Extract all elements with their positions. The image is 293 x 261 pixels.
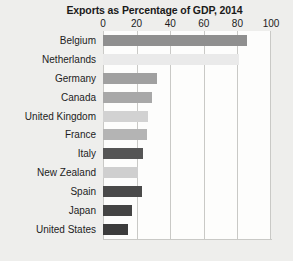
bar-row <box>103 31 271 50</box>
x-tick-label: 100 <box>263 18 280 29</box>
x-axis-tick-labels: 020406080100 <box>0 18 293 31</box>
y-label-row: Germany <box>0 69 99 88</box>
y-axis-label: Canada <box>61 92 99 103</box>
y-axis-label: New Zealand <box>37 167 99 178</box>
y-axis-label: United Kingdom <box>25 111 99 122</box>
bar-row <box>103 88 271 107</box>
x-tick-label: 20 <box>131 18 142 29</box>
x-tick-label: 0 <box>100 18 106 29</box>
plot-area <box>103 31 271 239</box>
y-label-row: Netherlands <box>0 50 99 69</box>
bar <box>103 129 147 140</box>
x-tick-label: 40 <box>165 18 176 29</box>
bar <box>103 92 152 103</box>
y-axis-label: United States <box>36 224 99 235</box>
bar-row <box>103 50 271 69</box>
y-axis-label: Japan <box>69 205 99 216</box>
y-label-row: Belgium <box>0 31 99 50</box>
x-tick-label: 60 <box>198 18 209 29</box>
chart-title: Exports as Percentage of GDP, 2014 <box>0 4 293 16</box>
bar <box>103 35 247 46</box>
bars-layer <box>103 31 271 239</box>
y-label-row: France <box>0 125 99 144</box>
y-label-row: Canada <box>0 88 99 107</box>
y-label-row: Italy <box>0 144 99 163</box>
bar <box>103 111 148 122</box>
y-label-row: Spain <box>0 182 99 201</box>
bar-row <box>103 144 271 163</box>
y-label-row: New Zealand <box>0 163 99 182</box>
y-axis-label: Germany <box>55 73 99 84</box>
y-axis-category-labels: BelgiumNetherlandsGermanyCanadaUnited Ki… <box>0 31 99 239</box>
bar <box>103 148 143 159</box>
bar <box>103 205 132 216</box>
bar-row <box>103 201 271 220</box>
y-axis-label: France <box>65 129 99 140</box>
y-label-row: United States <box>0 220 99 239</box>
bar-row <box>103 220 271 239</box>
bar <box>103 73 157 84</box>
bar <box>103 224 128 235</box>
y-label-row: United Kingdom <box>0 107 99 126</box>
y-axis-label: Italy <box>78 148 99 159</box>
bar-row <box>103 125 271 144</box>
bar <box>103 167 138 178</box>
bar-row <box>103 107 271 126</box>
y-axis-label: Netherlands <box>42 54 99 65</box>
bar <box>103 186 142 197</box>
bar-row <box>103 163 271 182</box>
x-tick-label: 80 <box>232 18 243 29</box>
bar-row <box>103 182 271 201</box>
x-axis-line <box>103 239 272 240</box>
bar-row <box>103 69 271 88</box>
y-axis-label: Spain <box>70 186 99 197</box>
bar-chart-figure: Exports as Percentage of GDP, 2014 02040… <box>0 0 293 261</box>
bar <box>103 54 239 65</box>
y-axis-label: Belgium <box>60 35 99 46</box>
y-label-row: Japan <box>0 201 99 220</box>
